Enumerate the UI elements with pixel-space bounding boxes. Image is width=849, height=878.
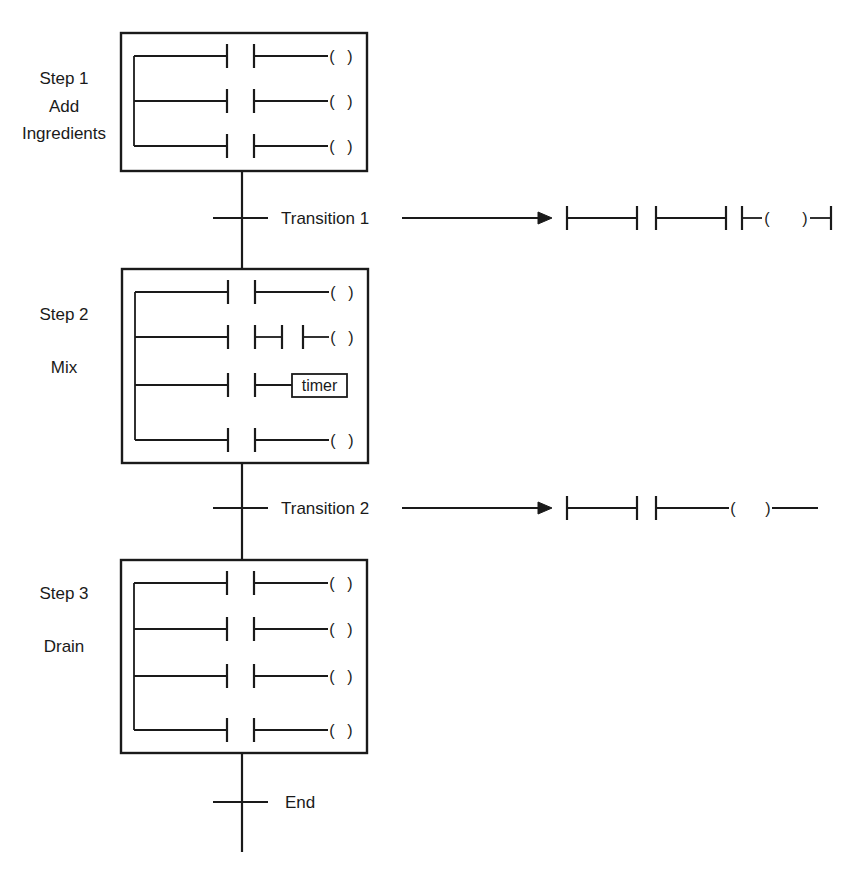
step-number-label: Step 3 (39, 584, 88, 603)
step-name-label: Add (49, 97, 79, 116)
coil-symbol: () (329, 621, 352, 638)
coil-symbol: () (764, 210, 807, 227)
coil-symbol: () (730, 500, 770, 517)
coil-close-paren: ) (348, 432, 353, 449)
step-number-label: Step 2 (39, 305, 88, 324)
coil-close-paren: ) (348, 329, 353, 346)
transition-ladder-logic: () (567, 496, 818, 520)
step-2: Step 2Mix()()timer() (39, 269, 368, 463)
coil-symbol: () (329, 575, 352, 592)
coil-close-paren: ) (347, 668, 352, 685)
ladder-rung: () (135, 325, 354, 349)
coil-close-paren: ) (347, 575, 352, 592)
coil-symbol: () (330, 329, 353, 346)
coil-symbol: () (329, 138, 352, 155)
transition-label: Transition 2 (281, 499, 369, 518)
timer-label: timer (302, 377, 338, 394)
coil-symbol: () (330, 432, 353, 449)
coil-close-paren: ) (347, 621, 352, 638)
coil-symbol: () (329, 668, 352, 685)
coil-close-paren: ) (347, 93, 352, 110)
coil-symbol: () (329, 93, 352, 110)
ladder-rung: () (134, 44, 353, 68)
step-3: Step 3Drain()()()() (39, 560, 367, 753)
sfc-diagram: Step 1AddIngredients()()()Step 2Mix()()t… (0, 0, 849, 878)
ladder-rung: () (134, 718, 353, 742)
coil-open-paren: ( (329, 722, 335, 739)
ladder-rung: () (135, 428, 354, 452)
coil-close-paren: ) (348, 284, 353, 301)
transition-ladder-logic: () (567, 206, 831, 230)
coil-symbol: () (329, 48, 352, 65)
ladder-rung: () (135, 280, 354, 304)
step-name-label: Mix (51, 358, 78, 377)
step-1: Step 1AddIngredients()()() (22, 33, 367, 171)
step-name-label: Ingredients (22, 124, 106, 143)
coil-open-paren: ( (329, 668, 335, 685)
arrow-head-icon (538, 212, 552, 224)
coil-open-paren: ( (329, 138, 335, 155)
ladder-rung: () (134, 89, 353, 113)
end-label: End (285, 793, 315, 812)
coil-close-paren: ) (802, 210, 807, 227)
ladder-rung: () (134, 571, 353, 595)
coil-open-paren: ( (329, 621, 335, 638)
coil-open-paren: ( (730, 500, 736, 517)
ladder-rung: timer (135, 373, 347, 397)
coil-open-paren: ( (764, 210, 770, 227)
coil-open-paren: ( (329, 575, 335, 592)
coil-open-paren: ( (330, 284, 336, 301)
ladder-rung: () (134, 134, 353, 158)
coil-close-paren: ) (765, 500, 770, 517)
arrow-head-icon (538, 502, 552, 514)
coil-open-paren: ( (329, 48, 335, 65)
coil-open-paren: ( (330, 432, 336, 449)
transition-2: Transition 2() (213, 496, 818, 520)
coil-close-paren: ) (347, 48, 352, 65)
coil-open-paren: ( (330, 329, 336, 346)
end-transition: End (213, 793, 315, 812)
step-name-label: Drain (44, 637, 85, 656)
coil-symbol: () (330, 284, 353, 301)
ladder-rung: () (134, 617, 353, 641)
transition-1: Transition 1() (213, 206, 831, 230)
step-number-label: Step 1 (39, 69, 88, 88)
transition-label: Transition 1 (281, 209, 369, 228)
coil-symbol: () (329, 722, 352, 739)
coil-open-paren: ( (329, 93, 335, 110)
coil-close-paren: ) (347, 138, 352, 155)
coil-close-paren: ) (347, 722, 352, 739)
ladder-rung: () (134, 664, 353, 688)
